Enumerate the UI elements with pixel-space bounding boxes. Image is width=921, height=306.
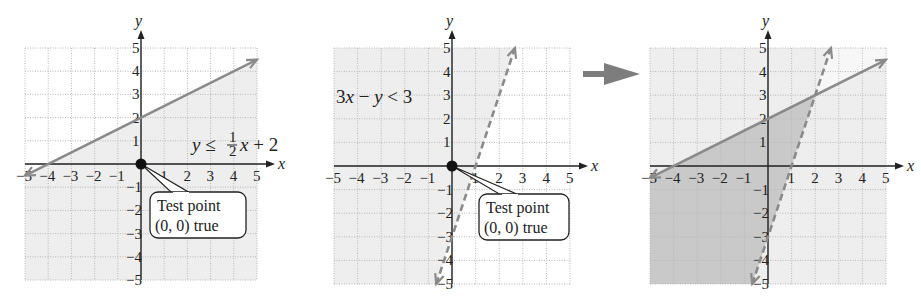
svg-text:−4: −4 bbox=[349, 170, 365, 186]
test-point-dot bbox=[136, 159, 147, 170]
svg-text:−4: −4 bbox=[665, 170, 681, 186]
svg-text:5: 5 bbox=[253, 168, 261, 184]
svg-text:3: 3 bbox=[759, 87, 767, 103]
figure-canvas: xy−5−4−3−2−11234554321−1−2−3−4−5Test poi… bbox=[0, 0, 921, 306]
svg-text:2: 2 bbox=[183, 168, 191, 184]
svg-text:4: 4 bbox=[759, 64, 767, 80]
svg-text:−2: −2 bbox=[396, 170, 412, 186]
svg-text:1: 1 bbox=[443, 134, 451, 150]
svg-text:5: 5 bbox=[759, 40, 767, 56]
svg-text:−2: −2 bbox=[712, 170, 728, 186]
svg-text:4: 4 bbox=[230, 168, 238, 184]
svg-text:−3: −3 bbox=[126, 226, 142, 242]
svg-text:1: 1 bbox=[132, 133, 140, 149]
x-axis-label: x bbox=[906, 157, 914, 174]
svg-text:−4: −4 bbox=[126, 249, 142, 265]
svg-text:1: 1 bbox=[759, 134, 767, 150]
svg-text:−3: −3 bbox=[437, 229, 453, 245]
svg-text:−3: −3 bbox=[62, 168, 78, 184]
panel2-inequality-label: 3x − y < 3 bbox=[336, 86, 412, 107]
svg-text:−5: −5 bbox=[325, 170, 341, 186]
svg-text:2: 2 bbox=[811, 170, 819, 186]
svg-text:3: 3 bbox=[207, 168, 215, 184]
callout-line-2: (0, 0) true bbox=[155, 217, 219, 235]
callout-line-2: (0, 0) true bbox=[484, 219, 548, 237]
svg-text:3: 3 bbox=[443, 87, 451, 103]
x-axis-label: x bbox=[277, 155, 285, 172]
svg-text:−4: −4 bbox=[39, 168, 55, 184]
callout-line-1: Test point bbox=[157, 197, 221, 215]
svg-text:3: 3 bbox=[519, 170, 527, 186]
svg-text:4: 4 bbox=[542, 170, 550, 186]
fraction-denominator: 2 bbox=[229, 143, 237, 159]
svg-text:5: 5 bbox=[132, 40, 140, 56]
svg-text:−2: −2 bbox=[86, 168, 102, 184]
svg-text:−1: −1 bbox=[437, 182, 453, 198]
svg-text:−3: −3 bbox=[753, 229, 769, 245]
svg-text:3: 3 bbox=[132, 86, 140, 102]
svg-text:−2: −2 bbox=[437, 205, 453, 221]
svg-text:−1: −1 bbox=[419, 170, 435, 186]
svg-text:−3: −3 bbox=[372, 170, 388, 186]
svg-text:4: 4 bbox=[858, 170, 866, 186]
y-axis-label: y bbox=[133, 12, 143, 30]
svg-text:2: 2 bbox=[443, 111, 451, 127]
svg-text:−1: −1 bbox=[126, 179, 142, 195]
svg-text:−3: −3 bbox=[688, 170, 704, 186]
svg-text:−2: −2 bbox=[753, 205, 769, 221]
svg-text:−1: −1 bbox=[735, 170, 751, 186]
svg-text:4: 4 bbox=[443, 64, 451, 80]
svg-text:4: 4 bbox=[132, 63, 140, 79]
y-axis-label: y bbox=[760, 12, 770, 30]
svg-text:−1: −1 bbox=[753, 182, 769, 198]
y-axis-label: y bbox=[444, 12, 454, 30]
callout-line-1: Test point bbox=[486, 199, 550, 217]
svg-text:−1: −1 bbox=[109, 168, 125, 184]
svg-text:−2: −2 bbox=[126, 202, 142, 218]
graph-panel-2: xy−5−4−3−2−11234554321−1−2−3−4−5Test poi… bbox=[325, 12, 598, 292]
panel1-inequality-label: y ≤ bbox=[190, 134, 216, 155]
x-axis-label: x bbox=[590, 157, 598, 174]
test-point-dot bbox=[447, 161, 458, 172]
svg-text:3: 3 bbox=[835, 170, 843, 186]
svg-text:5: 5 bbox=[443, 40, 451, 56]
graph-panel-3: xy−5−4−3−2−11234554321−1−2−3−4−5 bbox=[641, 12, 914, 292]
transition-arrow-icon bbox=[583, 63, 640, 85]
panel1-fraction: 1 2 bbox=[227, 129, 237, 159]
svg-text:5: 5 bbox=[882, 170, 890, 186]
panel1-inequality-suffix: x + 2 bbox=[239, 134, 278, 155]
svg-text:5: 5 bbox=[566, 170, 574, 186]
svg-text:−5: −5 bbox=[126, 272, 142, 288]
svg-text:2: 2 bbox=[495, 170, 503, 186]
